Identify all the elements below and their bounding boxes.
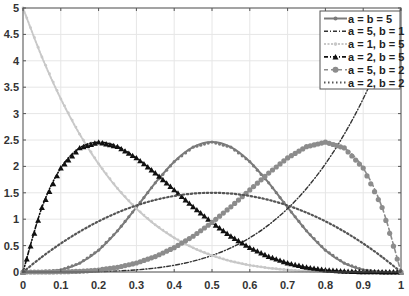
legend-label: a = 2, b = 5 bbox=[348, 51, 404, 63]
legend-label: a = 5, b = 2 bbox=[348, 64, 404, 76]
y-tick-label: 4.5 bbox=[4, 28, 19, 40]
y-tick-label: 4 bbox=[13, 55, 20, 67]
beta-distribution-chart: 00.10.20.30.40.50.60.70.80.9100.511.522.… bbox=[0, 0, 409, 296]
y-tick-label: 2 bbox=[13, 160, 19, 172]
x-tick-label: 0.7 bbox=[280, 279, 295, 291]
y-tick-label: 2.5 bbox=[4, 134, 19, 146]
x-tick-label: 0.5 bbox=[204, 279, 219, 291]
x-tick-label: 1 bbox=[398, 279, 404, 291]
y-tick-label: 3 bbox=[13, 108, 19, 120]
x-tick-label: 0.1 bbox=[53, 279, 68, 291]
x-tick-label: 0.4 bbox=[167, 279, 183, 291]
y-tick-label: 0.5 bbox=[4, 240, 19, 252]
y-tick-label: 5 bbox=[13, 2, 19, 14]
legend: a = b = 5a = 5, b = 1a = 1, b = 5a = 2, … bbox=[320, 11, 404, 89]
legend-label: a = 1, b = 5 bbox=[348, 38, 404, 50]
legend-label: a = 5, b = 1 bbox=[348, 25, 404, 37]
x-tick-label: 0.6 bbox=[242, 279, 257, 291]
y-tick-label: 0 bbox=[13, 266, 19, 278]
y-tick-label: 1 bbox=[13, 213, 19, 225]
x-tick-label: 0.3 bbox=[129, 279, 144, 291]
legend-label: a = 2, b = 2 bbox=[348, 77, 404, 89]
x-tick-label: 0.8 bbox=[318, 279, 333, 291]
x-tick-label: 0 bbox=[20, 279, 26, 291]
legend-label: a = b = 5 bbox=[348, 13, 392, 25]
x-tick-label: 0.9 bbox=[356, 279, 371, 291]
y-tick-label: 1.5 bbox=[4, 187, 19, 199]
x-tick-label: 0.2 bbox=[91, 279, 106, 291]
y-tick-label: 3.5 bbox=[4, 81, 19, 93]
